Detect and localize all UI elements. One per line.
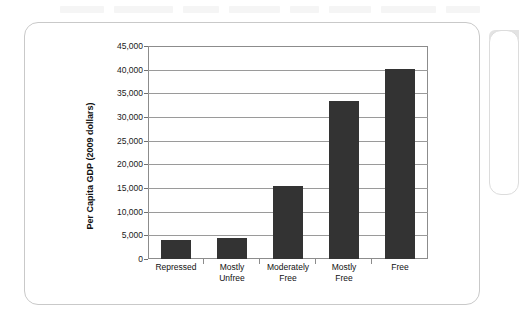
y-axis-title-text: Per Capita GDP (2009 dollars) bbox=[85, 102, 95, 229]
page-bleed-through bbox=[60, 2, 480, 16]
bar-slot bbox=[204, 46, 260, 259]
y-axis-title: Per Capita GDP (2009 dollars) bbox=[83, 68, 97, 263]
x-axis-label: ModeratelyFree bbox=[260, 262, 316, 284]
x-axis-label-line2: Free bbox=[316, 273, 372, 284]
x-axis-label-line2: Unfree bbox=[204, 273, 260, 284]
bar-slot bbox=[260, 46, 316, 259]
x-axis-label-line1: Free bbox=[391, 262, 408, 272]
bar[interactable] bbox=[385, 69, 415, 259]
x-axis-label-line2: Free bbox=[260, 273, 316, 284]
x-axis-label: MostlyUnfree bbox=[204, 262, 260, 284]
bar[interactable] bbox=[217, 238, 247, 259]
x-axis-label: Free bbox=[372, 262, 428, 284]
figure-card: Per Capita GDP (2009 dollars) 45,00040,0… bbox=[24, 22, 480, 305]
bar[interactable] bbox=[273, 186, 303, 259]
x-axis-labels: RepressedMostlyUnfreeModeratelyFreeMostl… bbox=[148, 262, 428, 284]
y-tick-mark bbox=[144, 259, 148, 260]
bar[interactable] bbox=[161, 240, 191, 259]
y-tick-label: 20,000 bbox=[117, 159, 143, 169]
x-axis-label-line1: Mostly bbox=[220, 262, 245, 272]
y-tick-label: 25,000 bbox=[117, 136, 143, 146]
y-tick-label: 15,000 bbox=[117, 183, 143, 193]
x-axis-label-line1: Mostly bbox=[332, 262, 357, 272]
y-tick-label: 35,000 bbox=[117, 88, 143, 98]
x-axis-label: MostlyFree bbox=[316, 262, 372, 284]
y-tick-label: 0 bbox=[138, 254, 143, 264]
bars-layer bbox=[148, 46, 428, 259]
y-tick-label: 30,000 bbox=[117, 112, 143, 122]
bar-slot bbox=[148, 46, 204, 259]
x-axis-label: Repressed bbox=[148, 262, 204, 284]
bar[interactable] bbox=[329, 101, 359, 259]
bar-slot bbox=[372, 46, 428, 259]
y-tick-label: 10,000 bbox=[117, 207, 143, 217]
bar-slot bbox=[316, 46, 372, 259]
y-tick-label: 5,000 bbox=[122, 230, 143, 240]
side-panel-clipped bbox=[489, 30, 519, 195]
x-axis-label-line1: Moderately bbox=[267, 262, 309, 272]
y-tick-label: 45,000 bbox=[117, 41, 143, 51]
y-tick-label: 40,000 bbox=[117, 65, 143, 75]
bar-chart: 45,00040,00035,00030,00025,00020,00015,0… bbox=[148, 46, 428, 259]
x-axis-label-line1: Repressed bbox=[155, 262, 196, 272]
